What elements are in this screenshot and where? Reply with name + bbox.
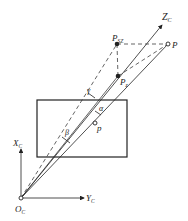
projection-diagram: ZC PSZ P Pz p γ α β XC YC OC [0, 0, 188, 221]
svg-text:PSZ: PSZ [111, 33, 124, 44]
ray-to-psz [21, 44, 117, 198]
svg-text:XC: XC [12, 138, 23, 149]
gamma-label: γ [87, 86, 91, 95]
oc-sub: C [22, 209, 26, 215]
image-plane [37, 100, 127, 157]
p-world-label: P [171, 40, 178, 50]
yc-sub: C [91, 198, 95, 204]
zc-axis [21, 25, 162, 198]
svg-text:YC: YC [86, 193, 95, 204]
ray-to-pz [21, 76, 118, 198]
origin-oc [19, 196, 23, 200]
svg-text:Pz: Pz [119, 77, 129, 88]
p-image-label: p [96, 123, 102, 133]
beta-label: β [64, 128, 69, 137]
zc-sub: C [168, 17, 173, 23]
pz-sub: z [125, 82, 129, 88]
svg-text:OC: OC [15, 204, 26, 215]
psz-sub: SZ [118, 38, 125, 44]
point-p-world [166, 42, 170, 46]
xc-sub: C [19, 143, 23, 149]
svg-text:ZC: ZC [162, 11, 173, 23]
psz-to-pz [117, 44, 118, 76]
